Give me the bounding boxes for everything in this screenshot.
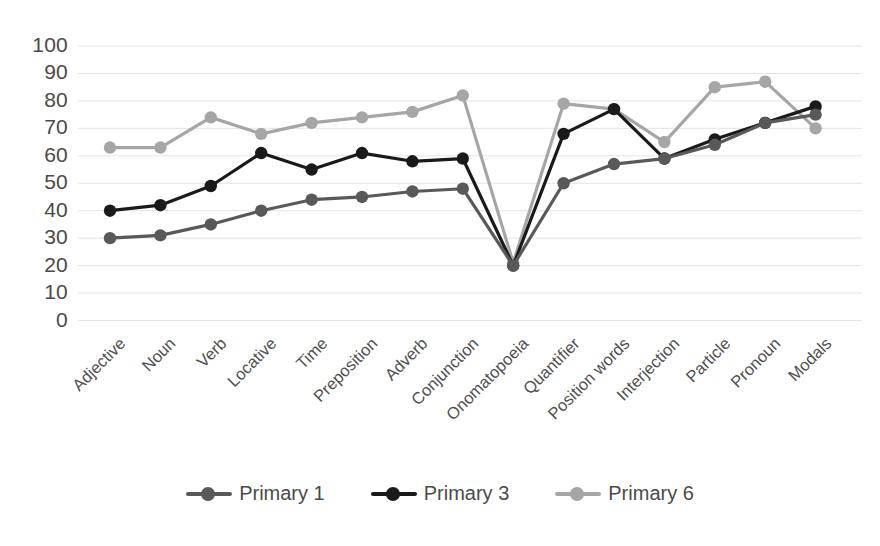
data-point bbox=[557, 128, 569, 140]
data-point bbox=[356, 147, 368, 159]
data-point bbox=[457, 89, 469, 101]
data-point bbox=[406, 155, 418, 167]
chart-legend: Primary 1Primary 3Primary 6 bbox=[0, 482, 880, 505]
legend-label: Primary 1 bbox=[239, 482, 325, 505]
data-point bbox=[356, 191, 368, 203]
data-point bbox=[608, 158, 620, 170]
data-point bbox=[457, 183, 469, 195]
data-point bbox=[104, 232, 116, 244]
data-point bbox=[759, 117, 771, 129]
data-point bbox=[255, 147, 267, 159]
legend-label: Primary 6 bbox=[608, 482, 694, 505]
legend-marker-icon bbox=[570, 487, 584, 501]
data-point bbox=[356, 111, 368, 123]
data-point bbox=[709, 139, 721, 151]
data-point bbox=[406, 106, 418, 118]
data-point bbox=[154, 141, 166, 153]
data-point bbox=[104, 205, 116, 217]
data-point bbox=[154, 229, 166, 241]
series-line bbox=[110, 82, 816, 263]
data-point bbox=[507, 259, 519, 271]
data-point bbox=[608, 103, 620, 115]
data-point bbox=[205, 180, 217, 192]
gridlines bbox=[78, 46, 862, 321]
data-point bbox=[809, 108, 821, 120]
legend-marker-icon bbox=[201, 487, 215, 501]
legend-entry[interactable]: Primary 6 bbox=[555, 482, 694, 505]
data-point bbox=[557, 97, 569, 109]
series-primary-6 bbox=[104, 75, 822, 269]
data-point bbox=[104, 141, 116, 153]
data-point bbox=[154, 199, 166, 211]
data-point bbox=[709, 81, 721, 93]
legend-entry[interactable]: Primary 3 bbox=[371, 482, 510, 505]
data-point bbox=[557, 177, 569, 189]
line-chart: 0102030405060708090100 AdjectiveNounVerb… bbox=[0, 0, 880, 546]
data-point bbox=[809, 122, 821, 134]
legend-marker-icon bbox=[386, 487, 400, 501]
series-layer bbox=[104, 75, 822, 271]
data-point bbox=[305, 163, 317, 175]
legend-swatch bbox=[186, 485, 232, 503]
data-point bbox=[658, 152, 670, 164]
legend-swatch bbox=[371, 485, 417, 503]
data-point bbox=[205, 218, 217, 230]
data-point bbox=[658, 136, 670, 148]
data-point bbox=[205, 111, 217, 123]
data-point bbox=[457, 152, 469, 164]
data-point bbox=[305, 117, 317, 129]
data-point bbox=[255, 205, 267, 217]
legend-swatch bbox=[555, 485, 601, 503]
data-point bbox=[406, 185, 418, 197]
data-point bbox=[305, 194, 317, 206]
legend-label: Primary 3 bbox=[424, 482, 510, 505]
data-point bbox=[759, 75, 771, 87]
data-point bbox=[255, 128, 267, 140]
legend-entry[interactable]: Primary 1 bbox=[186, 482, 325, 505]
